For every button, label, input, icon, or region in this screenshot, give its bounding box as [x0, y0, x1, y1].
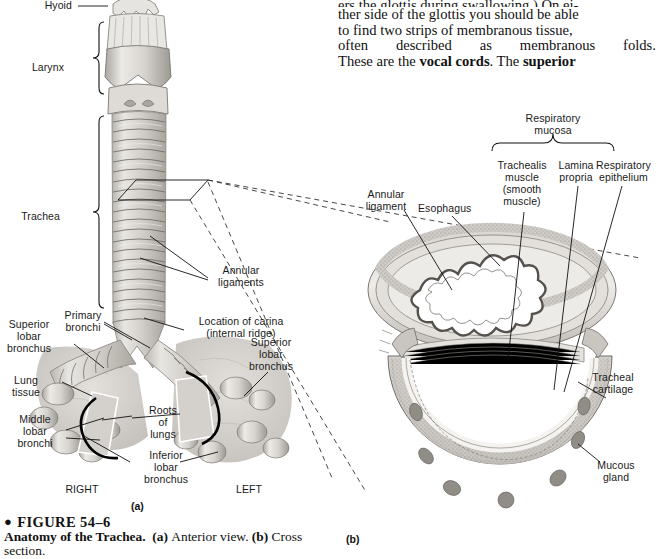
- label-respiratory-epithelium: Respiratory epithelium: [590, 159, 657, 183]
- body-line-4-w1: often: [338, 38, 368, 54]
- label-trachea: Trachea: [0, 210, 60, 222]
- term-superior: superior: [523, 54, 576, 69]
- label-left-side: LEFT: [228, 483, 270, 495]
- label-middle-lobar-bronchi: Middle lobar bronchi: [4, 413, 66, 449]
- body-line-4-w2: described: [396, 38, 452, 54]
- body-line-4: often described as membranous folds.: [338, 38, 656, 54]
- caption-figure-line: ●FIGURE 54–6: [4, 515, 324, 530]
- larynx-illustration: [105, 0, 171, 114]
- caption-part-b-tag: (b): [252, 529, 268, 544]
- body-line-4-w4: membranous: [520, 38, 595, 54]
- label-respiratory-mucosa: Respiratory mucosa: [514, 112, 592, 136]
- term-vocal-cords: vocal cords: [419, 54, 489, 69]
- body-line-5-b: . The: [490, 54, 523, 69]
- body-line-3: to find two strips of membranous tissue,: [338, 23, 656, 39]
- body-line-2: ther side of the glottis you should be a…: [338, 7, 656, 23]
- label-annular-ligaments: Annular ligaments: [205, 264, 277, 288]
- caption-body: Anatomy of the Trachea. (a) Anterior vie…: [4, 530, 324, 545]
- label-tracheal-cartilage: Tracheal cartilage: [582, 371, 644, 395]
- label-esophagus: Esophagus: [418, 202, 478, 214]
- label-inferior-lobar-bronchus: Inferior lobar bronchus: [133, 449, 199, 485]
- panel-b-mark: (b): [346, 533, 359, 545]
- respiratory-mucosa-bracket: [492, 134, 614, 151]
- caption-bullet-icon: ●: [4, 514, 12, 529]
- figure-caption: ●FIGURE 54–6 Anatomy of the Trachea. (a)…: [4, 515, 324, 559]
- label-larynx: Larynx: [6, 61, 64, 73]
- body-line-5-a: These are the: [338, 54, 419, 69]
- caption-part-a-text: Anterior view.: [171, 529, 248, 544]
- label-roots-of-lungs: Roots of lungs: [140, 404, 186, 440]
- caption-last-line: section.: [4, 544, 324, 559]
- panel-a-mark: (a): [131, 500, 144, 512]
- label-lung-tissue: Lung tissue: [2, 374, 50, 398]
- body-line-4-w5: folds.: [623, 38, 656, 54]
- label-right-side: RIGHT: [58, 483, 106, 495]
- body-line-4-w3: as: [480, 38, 492, 54]
- caption-part-b-text: Cross: [272, 529, 303, 544]
- label-superior-lobar-bronchus-left: Superior lobar bronchus: [240, 336, 302, 372]
- caption-figure-number: FIGURE 54–6: [17, 514, 110, 530]
- label-mucous-gland: Mucous gland: [588, 459, 644, 483]
- label-primary-bronchi: Primary bronchi: [52, 309, 114, 333]
- cross-section-illustration: [368, 227, 616, 508]
- trachea-illustration: [112, 112, 166, 325]
- body-line-1: ers the glottis during swallowing.) On e…: [338, 0, 656, 7]
- panel-a-brackets: [78, 6, 108, 308]
- body-line-5: These are the vocal cords. The superior: [338, 54, 656, 70]
- caption-part-a-tag: (a): [152, 529, 168, 544]
- label-annular-ligament: Annular ligament: [355, 188, 417, 212]
- label-superior-lobar-bronchus-right: Superior lobar bronchus: [0, 318, 58, 354]
- caption-title: Anatomy of the Trachea.: [4, 529, 146, 544]
- body-text-column: ers the glottis during swallowing.) On e…: [338, 0, 656, 69]
- label-trachealis-muscle: Trachealis muscle (smooth muscle): [490, 159, 554, 207]
- label-hyoid: Hyoid: [10, 0, 72, 11]
